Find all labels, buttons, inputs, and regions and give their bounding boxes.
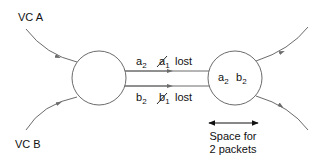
lost-label-top: lost	[175, 55, 192, 67]
packet-a2-label: a2	[136, 55, 147, 70]
output-edge-bottom	[256, 96, 308, 130]
bottom-link-labels: b2 b1 lost	[136, 91, 192, 106]
packet-b1-lost-label: b1	[159, 91, 170, 106]
vc-b-label: VC B	[15, 138, 41, 150]
switch-node-left	[72, 51, 126, 105]
vc-b-input-edge	[26, 97, 77, 130]
vc-a-input-edge	[26, 29, 77, 62]
output-top-arrow	[256, 52, 282, 61]
top-link-labels: a2 a1 lost	[136, 55, 192, 70]
packet-b2-label: b2	[136, 91, 147, 106]
vc-b-arrow-segment	[26, 103, 59, 130]
buffer-annotation-line1: Space for	[209, 130, 256, 142]
buffer-annotation-line2: 2 packets	[209, 143, 257, 155]
vc-a-label: VC A	[18, 11, 44, 23]
switch-node-right-buffer	[208, 51, 262, 105]
lost-label-bottom: lost	[175, 91, 192, 103]
vc-packet-loss-diagram: VC A VC B a2 a1 lost b2 b1 lost	[0, 0, 329, 161]
output-edge-top	[256, 27, 308, 61]
